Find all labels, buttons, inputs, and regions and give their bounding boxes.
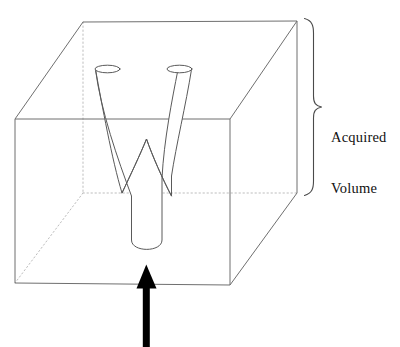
figure-root: Acquired Volume	[0, 0, 400, 347]
box-edge-bottom-front	[15, 283, 230, 285]
box-edge-top-right-receding	[230, 21, 297, 119]
box-edge-top-left-receding	[15, 22, 83, 119]
acquired-volume-label-line-2: Volume	[331, 180, 400, 197]
vessel-right-branch-opening	[167, 65, 192, 73]
vessel-body-outline	[96, 70, 192, 250]
acquired-volume-label: Acquired Volume	[331, 95, 400, 231]
box-edge-top-back	[83, 21, 297, 22]
right-curly-brace	[305, 19, 322, 196]
flow-direction-arrow	[137, 265, 157, 347]
y-shaped-vessel-phantom	[95, 65, 192, 249]
acquired-volume-label-line-1: Acquired	[331, 129, 400, 146]
box-edge-bottom-left-receding	[15, 193, 83, 283]
arrow-shaft	[143, 284, 150, 347]
vessel-left-branch-opening	[95, 65, 120, 73]
box-edge-bottom-right-receding	[230, 193, 297, 285]
brace-path	[305, 19, 322, 196]
